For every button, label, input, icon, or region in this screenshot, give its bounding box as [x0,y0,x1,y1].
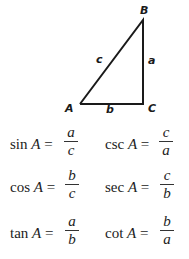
formula-row-tan-cot: tan A = a b cot A = b a [0,214,189,254]
formula-row-cos-sec: cos A = b c sec A = c b [0,168,189,208]
formula-sin: sin A = a c [10,125,90,165]
right-triangle [0,0,189,120]
formula-cot: cot A = b a [105,214,185,254]
equals-sign: = [47,179,55,195]
formula-lhs: cot A = [105,225,148,242]
function-name: sec [105,179,124,195]
angle-variable: A [31,136,40,152]
vertex-label-b: B [140,5,148,16]
formula-tan: tan A = a b [10,214,90,254]
formula-row-sin-csc: sin A = a c csc A = c a [0,125,189,165]
equals-sign: = [45,225,53,241]
equals-sign: = [140,225,148,241]
function-name: sin [10,136,28,152]
function-name: cot [105,225,123,241]
formula-sec: sec A = c b [105,168,185,208]
angle-variable: A [34,179,43,195]
side-label-a: a [148,55,155,66]
denominator: a [160,232,174,247]
numerator: b [160,214,174,229]
formula-lhs: cos A = [10,179,55,196]
formula-lhs: csc A = [105,136,149,153]
function-name: csc [105,136,124,152]
vertex-label-a: A [65,103,74,114]
numerator: a [65,214,79,229]
side-label-c: c [96,54,103,65]
angle-variable: A [128,136,137,152]
angle-variable: A [127,225,136,241]
formula-csc: csc A = c a [105,125,185,165]
fraction: c a [159,125,173,158]
denominator: a [159,143,173,158]
formula-lhs: sec A = [105,179,149,196]
side-label-b: b [106,104,114,115]
fraction: c b [160,168,174,201]
formula-lhs: tan A = [10,225,53,242]
numerator: b [65,168,79,183]
angle-variable: A [128,179,137,195]
function-name: cos [10,179,30,195]
equals-sign: = [141,179,149,195]
equals-sign: = [141,136,149,152]
angle-variable: A [32,225,41,241]
denominator: c [64,143,78,158]
denominator: b [65,232,79,247]
fraction: b a [160,214,174,247]
numerator: c [159,125,173,140]
numerator: a [64,125,78,140]
fraction: a c [64,125,78,158]
formula-cos: cos A = b c [10,168,90,208]
denominator: b [160,186,174,201]
fraction: b c [65,168,79,201]
formula-lhs: sin A = [10,136,53,153]
vertex-label-c: C [148,103,156,114]
denominator: c [65,186,79,201]
fraction: a b [65,214,79,247]
triangle-outline [80,20,143,104]
equals-sign: = [44,136,52,152]
function-name: tan [10,225,28,241]
numerator: c [160,168,174,183]
